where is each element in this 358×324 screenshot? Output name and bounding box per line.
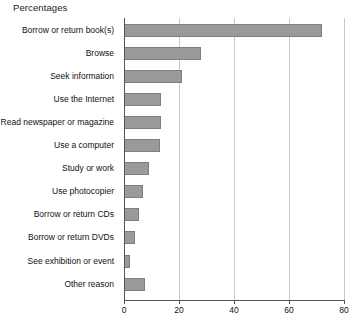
bar bbox=[124, 278, 145, 291]
category-label: Use the Internet bbox=[0, 93, 119, 106]
bar-row bbox=[124, 208, 139, 221]
tick-mark-40 bbox=[234, 300, 235, 304]
bar-row bbox=[124, 70, 182, 83]
chart-title: Percentages bbox=[13, 2, 67, 13]
tick-label-40: 40 bbox=[229, 305, 238, 315]
tick-label-0: 0 bbox=[122, 305, 127, 315]
category-label: See exhibition or event bbox=[0, 255, 119, 268]
category-label: Use a computer bbox=[0, 139, 119, 152]
tick-mark-80 bbox=[344, 300, 345, 304]
bar-row bbox=[124, 162, 149, 175]
bar-row bbox=[124, 185, 143, 198]
tick-label-60: 60 bbox=[284, 305, 293, 315]
category-label: Read newspaper or magazine bbox=[0, 116, 119, 129]
tick-mark-20 bbox=[179, 300, 180, 304]
tick-mark-0 bbox=[124, 300, 125, 304]
bar bbox=[124, 47, 201, 60]
bar-row bbox=[124, 278, 145, 291]
bar bbox=[124, 185, 143, 198]
category-label: Browse bbox=[0, 47, 119, 60]
category-label: Borrow or return book(s) bbox=[0, 24, 119, 37]
bar bbox=[124, 231, 135, 244]
bar bbox=[124, 70, 182, 83]
bar-row bbox=[124, 24, 322, 37]
bar-row bbox=[124, 116, 161, 129]
x-axis-ticks: 020406080 bbox=[124, 300, 345, 322]
bar-chart: Percentages Borrow or return book(s)Brow… bbox=[0, 0, 358, 324]
category-label: Use photocopier bbox=[0, 185, 119, 198]
tick-label-80: 80 bbox=[339, 305, 348, 315]
bar-row bbox=[124, 93, 161, 106]
bars-group bbox=[124, 18, 344, 301]
bar-row bbox=[124, 139, 160, 152]
tick-label-20: 20 bbox=[174, 305, 183, 315]
category-label: Other reason bbox=[0, 278, 119, 291]
category-label: Borrow or return CDs bbox=[0, 208, 119, 221]
y-axis-line bbox=[124, 18, 125, 301]
category-labels: Borrow or return book(s)BrowseSeek infor… bbox=[0, 18, 119, 301]
category-label: Seek information bbox=[0, 70, 119, 83]
bar bbox=[124, 24, 322, 37]
bar bbox=[124, 208, 139, 221]
gridline-80 bbox=[344, 18, 345, 301]
bar bbox=[124, 116, 161, 129]
category-label: Study or work bbox=[0, 162, 119, 175]
bar bbox=[124, 162, 149, 175]
bar-row bbox=[124, 231, 135, 244]
bar bbox=[124, 93, 161, 106]
tick-mark-60 bbox=[289, 300, 290, 304]
bar-row bbox=[124, 47, 201, 60]
category-label: Borrow or return DVDs bbox=[0, 231, 119, 244]
plot-area bbox=[124, 18, 344, 301]
bar bbox=[124, 139, 160, 152]
